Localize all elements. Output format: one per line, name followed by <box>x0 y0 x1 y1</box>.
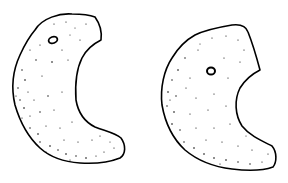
right-crescent <box>161 25 275 171</box>
left-crescent <box>13 14 125 163</box>
illustration <box>0 0 288 183</box>
hole-icon <box>207 67 215 74</box>
